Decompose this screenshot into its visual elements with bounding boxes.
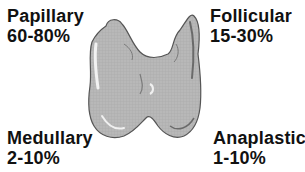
thyroid-gland-illustration [84,8,208,143]
medullary-range: 2-10% [7,148,93,168]
medullary-name: Medullary [7,128,93,148]
papillary-name: Papillary [7,6,84,26]
follicular-range: 15-30% [210,26,292,46]
papillary-range: 60-80% [7,26,84,46]
anaplastic-range: 1-10% [213,148,305,168]
follicular-label: Follicular 15-30% [210,6,292,46]
follicular-name: Follicular [210,6,292,26]
anaplastic-label: Anaplastic 1-10% [213,128,305,168]
thyroid-outline [89,15,201,137]
anaplastic-name: Anaplastic [213,128,305,148]
medullary-label: Medullary 2-10% [7,128,93,168]
papillary-label: Papillary 60-80% [7,6,84,46]
